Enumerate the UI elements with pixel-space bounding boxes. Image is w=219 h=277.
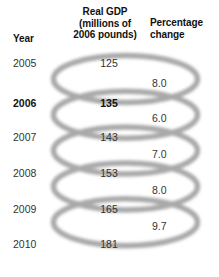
gdp-value: 153	[86, 167, 132, 179]
column-header-percentage-change-line1: Percentage	[150, 17, 216, 29]
table-row: 2006	[13, 97, 59, 109]
percentage-change-value: 7.0	[152, 148, 188, 160]
table-row: 2009	[13, 203, 59, 215]
column-header-real-gdp: Real GDP (millions of 2006 pounds)	[62, 6, 148, 41]
percentage-change-value: 8.0	[152, 77, 188, 89]
gdp-value: 143	[86, 131, 132, 143]
table-row: 2007	[13, 131, 59, 143]
table-row: 2008	[13, 167, 59, 179]
percentage-change-value: 6.0	[152, 112, 188, 124]
percentage-change-value: 8.0	[152, 184, 188, 196]
column-header-percentage-change-line2: change	[150, 29, 216, 41]
column-header-real-gdp-line2: (millions of	[62, 18, 148, 30]
gdp-value: 165	[86, 203, 132, 215]
gdp-value: 125	[86, 57, 132, 69]
column-header-percentage-change: Percentage change	[150, 17, 216, 40]
gdp-value: 135	[86, 97, 132, 109]
gdp-value: 181	[86, 238, 132, 250]
table-row: 2010	[13, 238, 59, 250]
gdp-table-figure: Year Real GDP (millions of 2006 pounds) …	[0, 0, 219, 277]
column-header-year: Year	[13, 33, 59, 45]
column-header-real-gdp-line3: 2006 pounds)	[62, 29, 148, 41]
percentage-change-value: 9.7	[152, 220, 188, 232]
table-row: 2005	[13, 57, 59, 69]
column-header-year-label: Year	[13, 33, 34, 44]
column-header-real-gdp-line1: Real GDP	[62, 6, 148, 18]
